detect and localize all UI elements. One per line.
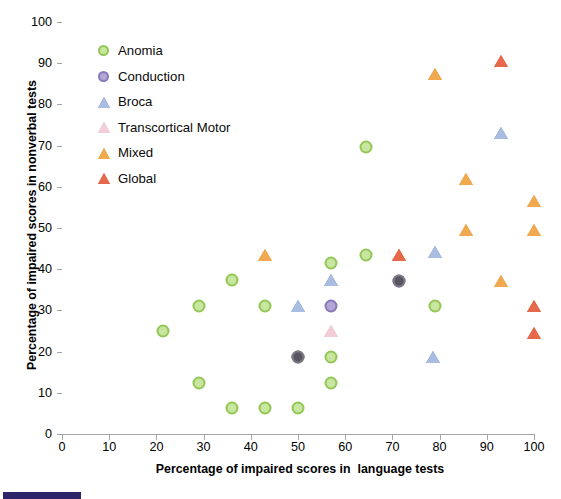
legend-item-global[interactable]: Global xyxy=(96,166,286,192)
y-tick-label: 90 xyxy=(8,56,52,70)
y-tick-label: 10 xyxy=(8,386,52,400)
y-tick-label: 30 xyxy=(8,303,52,317)
x-tick-label: 80 xyxy=(433,440,447,454)
y-tick-label: 60 xyxy=(8,180,52,194)
y-tick-label: 40 xyxy=(8,262,52,276)
triangle-marker-icon xyxy=(96,170,112,186)
data-point-broca xyxy=(428,246,442,258)
y-tick-label: 50 xyxy=(8,221,52,235)
page-edge-artifact xyxy=(3,492,81,499)
x-tick-label: 70 xyxy=(385,440,399,454)
x-tick-label: 100 xyxy=(523,440,544,454)
data-point-mixed xyxy=(527,195,541,207)
x-tick-label: 20 xyxy=(149,440,163,454)
data-point-anomia xyxy=(325,351,338,364)
data-point-broca xyxy=(291,300,305,312)
triangle-marker-icon xyxy=(96,119,112,135)
triangle-marker-icon xyxy=(96,94,112,110)
legend-item-label: Anomia xyxy=(118,43,163,58)
legend-item-label: Global xyxy=(118,171,156,186)
legend-item-conduction[interactable]: Conduction xyxy=(96,64,286,90)
legend-item-mixed[interactable]: Mixed xyxy=(96,140,286,166)
y-tick-label: 0 xyxy=(8,427,52,441)
x-tick-label: 50 xyxy=(291,440,305,454)
data-point-broca xyxy=(494,127,508,139)
data-point-conduction xyxy=(325,300,338,313)
data-point-anomia xyxy=(292,402,305,415)
chart-legend: AnomiaConductionBrocaTranscortical Motor… xyxy=(96,38,286,191)
x-tick-label: 40 xyxy=(244,440,258,454)
x-tick-label: 0 xyxy=(58,440,65,454)
data-point-anomia xyxy=(192,376,205,389)
x-tick-label: 10 xyxy=(102,440,116,454)
data-point-overlap xyxy=(393,274,406,287)
data-point-mixed xyxy=(459,224,473,236)
x-tick-label: 60 xyxy=(338,440,352,454)
y-tick-label: 70 xyxy=(8,139,52,153)
data-point-anomia xyxy=(225,274,238,287)
data-point-anomia xyxy=(157,325,170,338)
scatter-chart: Percentage of impaired scores in nonverb… xyxy=(0,0,561,499)
data-point-anomia xyxy=(360,249,373,262)
data-point-broca xyxy=(426,351,440,363)
triangle-marker-icon xyxy=(96,145,112,161)
x-axis-title: Percentage of impaired scores in languag… xyxy=(55,462,545,476)
data-point-broca xyxy=(324,274,338,286)
legend-item-transcortical-motor[interactable]: Transcortical Motor xyxy=(96,115,286,141)
data-point-overlap xyxy=(292,351,305,364)
data-point-global xyxy=(392,249,406,261)
data-point-global xyxy=(527,327,541,339)
y-tick-label: 80 xyxy=(8,97,52,111)
circle-marker-icon xyxy=(96,43,112,59)
legend-item-label: Transcortical Motor xyxy=(118,120,230,135)
data-point-anomia xyxy=(258,300,271,313)
data-point-mixed xyxy=(428,68,442,80)
legend-item-anomia[interactable]: Anomia xyxy=(96,38,286,64)
data-point-anomia xyxy=(258,402,271,415)
legend-item-label: Broca xyxy=(118,94,152,109)
y-tick-label: 20 xyxy=(8,345,52,359)
legend-item-label: Conduction xyxy=(118,69,185,84)
circle-marker-icon xyxy=(96,68,112,84)
data-point-mixed xyxy=(527,224,541,236)
data-point-transcortical-motor xyxy=(324,325,338,337)
data-point-mixed xyxy=(459,173,473,185)
data-point-anomia xyxy=(325,376,338,389)
data-point-anomia xyxy=(428,300,441,313)
data-point-global xyxy=(527,300,541,312)
data-point-mixed xyxy=(494,275,508,287)
legend-item-label: Mixed xyxy=(118,145,153,160)
data-point-anomia xyxy=(325,257,338,270)
data-point-anomia xyxy=(225,402,238,415)
data-point-mixed xyxy=(258,249,272,261)
legend-item-broca[interactable]: Broca xyxy=(96,89,286,115)
x-tick-label: 90 xyxy=(480,440,494,454)
x-tick-label: 30 xyxy=(197,440,211,454)
data-point-anomia xyxy=(360,141,373,154)
y-tick-label: 100 xyxy=(8,15,52,29)
data-point-global xyxy=(494,55,508,67)
data-point-anomia xyxy=(192,300,205,313)
